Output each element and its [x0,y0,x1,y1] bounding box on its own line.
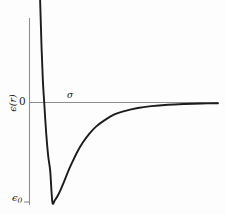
sigma-annotation-label: σ [67,91,73,100]
y-axis-zero-tick-label: 0 [19,96,26,107]
plot-area [0,0,226,214]
epsilon-zero-annotation-label: ϵ0 [12,193,22,204]
lennard-jones-curve [36,0,218,204]
epsilon-subscript: 0 [18,196,23,205]
potential-energy-chart: ϵ(r) 0 σ ϵ0 [0,0,226,214]
